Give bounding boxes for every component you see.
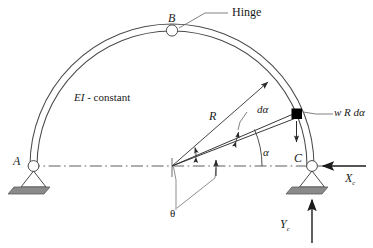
arch-diagram-figure: Hinge B A C EI - constant R dα α θ w R d… <box>0 0 373 248</box>
arch-ring <box>30 24 314 166</box>
point-a-label: A <box>13 155 20 167</box>
theta-leader-right <box>177 168 216 208</box>
reaction-x-subscript: c <box>352 179 355 187</box>
radius-ray <box>172 82 268 166</box>
d-alpha-label: dα <box>257 104 268 115</box>
theta-leader-left <box>174 167 177 210</box>
pin-circle-a <box>28 161 39 172</box>
reaction-y-symbol: Y <box>280 217 287 231</box>
reaction-y-subscript: c <box>287 225 290 233</box>
reaction-y-label: Yc <box>280 218 290 233</box>
ground-plate-c <box>286 187 328 194</box>
load-leader-line <box>303 112 333 114</box>
differential-element <box>292 109 303 120</box>
alpha-arc <box>255 130 263 167</box>
diagram-canvas <box>0 0 373 248</box>
pin-support-triangle-a <box>21 171 46 187</box>
hinge-leader-line <box>179 13 228 28</box>
point-b-label: B <box>168 12 175 24</box>
hinge-circle-b <box>166 25 177 36</box>
ei-suffix: - constant <box>84 91 130 103</box>
pin-support-triangle-c <box>300 171 325 187</box>
ei-symbol: EI <box>74 91 84 103</box>
point-c-label: C <box>294 152 302 164</box>
d-alpha-leader-line <box>238 112 247 130</box>
arch-outer-arc <box>30 24 314 166</box>
ground-plate-a <box>8 187 50 194</box>
hinge-label: Hinge <box>232 6 261 18</box>
element-ray-upper <box>172 112 298 166</box>
radius-label: R <box>209 110 216 122</box>
element-ray-lower <box>172 118 296 166</box>
alpha-label: α <box>263 147 269 158</box>
theta-label: θ <box>170 208 175 219</box>
reaction-x-label: Xc <box>345 172 355 187</box>
ei-constant-label: EI - constant <box>74 92 130 103</box>
load-label: w R dα <box>334 107 365 118</box>
pin-circle-c <box>307 161 318 172</box>
